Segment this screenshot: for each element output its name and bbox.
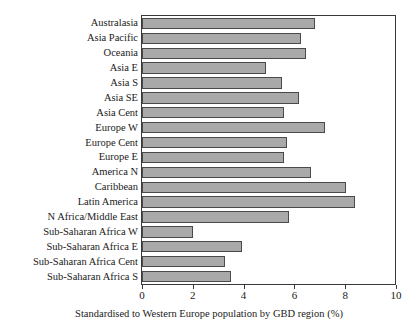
bar-row — [142, 92, 396, 103]
bar — [142, 122, 325, 133]
category-label: Asia E — [0, 63, 138, 74]
category-label: Latin America — [0, 197, 138, 208]
category-label: Asia SE — [0, 93, 138, 104]
bar-row — [142, 107, 396, 118]
bar-row — [142, 271, 396, 282]
category-label: America N — [0, 167, 138, 178]
category-label: Europe W — [0, 123, 138, 134]
bar-row — [142, 33, 396, 44]
category-label: Australasia — [0, 18, 138, 29]
bar-row — [142, 152, 396, 163]
bar — [142, 226, 193, 237]
bar-row — [142, 137, 396, 148]
bar-row — [142, 241, 396, 252]
bar-row — [142, 182, 396, 193]
category-label: Asia Cent — [0, 108, 138, 119]
x-axis-title: Standardised to Western Europe populatio… — [0, 309, 418, 320]
category-label: Sub-Saharan Africa S — [0, 272, 138, 283]
bar — [142, 167, 311, 178]
category-label: Sub-Saharan Africa W — [0, 227, 138, 238]
bar — [142, 271, 231, 282]
category-label: Oceania — [0, 48, 138, 59]
bar-row — [142, 167, 396, 178]
category-label: N Africa/Middle East — [0, 212, 138, 223]
bar-row — [142, 62, 396, 73]
category-label: Europe Cent — [0, 138, 138, 149]
x-axis-tick-label: 4 — [224, 290, 264, 301]
bar — [142, 256, 225, 267]
bar — [142, 33, 301, 44]
x-axis-tick-label: 10 — [376, 290, 416, 301]
x-axis-tick-label: 8 — [325, 290, 365, 301]
bar-row — [142, 211, 396, 222]
category-label: Sub-Saharan Africa E — [0, 242, 138, 253]
bar-row — [142, 226, 396, 237]
category-label: Asia S — [0, 78, 138, 89]
category-axis-labels: AustralasiaAsia PacificOceaniaAsia EAsia… — [0, 16, 138, 284]
category-label: Asia Pacific — [0, 33, 138, 44]
bar-row — [142, 256, 396, 267]
x-axis-tick-label: 0 — [122, 290, 162, 301]
bar-row — [142, 77, 396, 88]
bar-row — [142, 196, 396, 207]
x-axis-tick-label: 6 — [274, 290, 314, 301]
bar-chart-figure: AustralasiaAsia PacificOceaniaAsia EAsia… — [0, 0, 418, 330]
bar-row — [142, 122, 396, 133]
bar-row — [142, 48, 396, 59]
category-label: Europe E — [0, 152, 138, 163]
bar — [142, 241, 242, 252]
category-label: Caribbean — [0, 182, 138, 193]
bar — [142, 107, 284, 118]
bar — [142, 152, 284, 163]
bar — [142, 77, 282, 88]
bar — [142, 92, 299, 103]
bar — [142, 211, 289, 222]
bar — [142, 137, 287, 148]
x-axis-tick-label: 2 — [173, 290, 213, 301]
bar-row — [142, 18, 396, 29]
bar — [142, 182, 346, 193]
bar — [142, 18, 315, 29]
bar — [142, 48, 306, 59]
category-label: Sub-Saharan Africa Cent — [0, 257, 138, 268]
bar — [142, 196, 355, 207]
bar — [142, 62, 266, 73]
bars-container — [142, 16, 396, 284]
